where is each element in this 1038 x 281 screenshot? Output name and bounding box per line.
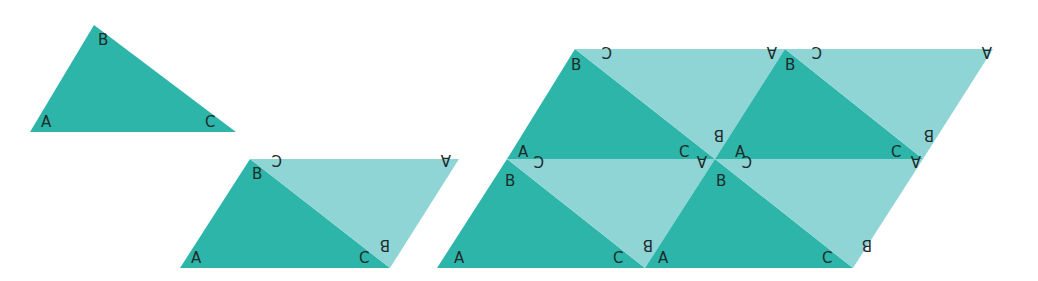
vertex-label-c: C xyxy=(534,152,544,170)
vertex-label-c: C xyxy=(822,249,832,267)
vertex-label-b: B xyxy=(505,172,515,190)
vertex-label-a: A xyxy=(191,249,202,267)
vertex-label-b: B xyxy=(862,236,872,254)
vertex-label-c: C xyxy=(812,43,822,61)
vertex-label-b: B xyxy=(252,165,262,183)
vertex-label-c: C xyxy=(272,151,282,169)
vertex-label-c: C xyxy=(359,249,369,267)
vertex-label-c: C xyxy=(602,43,612,61)
vertex-label-b: B xyxy=(714,126,724,144)
vertex-label-a: A xyxy=(658,249,669,267)
vertex-label-a: A xyxy=(766,43,777,61)
vertex-label-b: B xyxy=(924,126,934,144)
vertex-label-a: A xyxy=(981,43,992,61)
vertex-label-b: B xyxy=(380,236,390,254)
parallelogram-eight-triangles: ABCCABABCCABABCCABABCCAB xyxy=(437,43,993,268)
vertex-label-c: C xyxy=(613,249,623,267)
single-triangle: ABC xyxy=(30,25,236,132)
vertex-label-b: B xyxy=(716,172,726,190)
vertex-label-b: B xyxy=(785,56,795,74)
vertex-label-b: B xyxy=(98,31,108,49)
vertex-label-a: A xyxy=(696,152,707,170)
vertex-label-a: A xyxy=(518,143,529,161)
vertex-label-b: B xyxy=(571,56,581,74)
vertex-label-a: A xyxy=(910,152,921,170)
vertex-label-a: A xyxy=(735,143,746,161)
vertex-label-c: C xyxy=(891,143,901,161)
vertex-label-a: A xyxy=(440,151,451,169)
vertex-label-a: A xyxy=(41,113,52,131)
vertex-label-c: C xyxy=(679,143,689,161)
parallelogram-two-triangles: ABCCAB xyxy=(180,151,459,268)
vertex-label-a: A xyxy=(454,249,465,267)
vertex-label-b: B xyxy=(643,236,653,254)
vertex-label-c: C xyxy=(205,113,215,131)
triangle-tessellation-diagram: ABCABCCABABCCABABCCABABCCABABCCAB xyxy=(0,0,1038,281)
